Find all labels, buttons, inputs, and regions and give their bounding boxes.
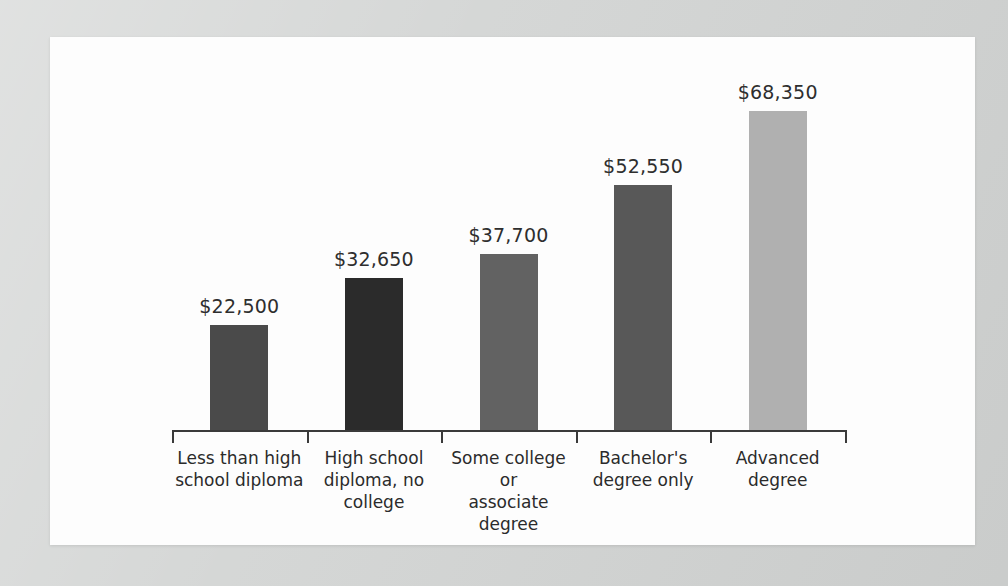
category-label: Advanceddegree: [710, 447, 845, 491]
category-label: Some college orassociatedegree: [441, 447, 576, 535]
category-label-line: Some college or: [441, 447, 576, 491]
category-label-line: Bachelor's: [576, 447, 711, 469]
bar-value-label: $22,500: [199, 295, 279, 317]
bar-rect: [210, 325, 268, 430]
category-label-line: degree: [710, 469, 845, 491]
category-label-line: degree only: [576, 469, 711, 491]
category-label-line: Less than high: [172, 447, 307, 469]
category-label-line: Advanced: [710, 447, 845, 469]
bar-rect: [480, 254, 538, 430]
category-label: Less than highschool diploma: [172, 447, 307, 491]
chart-panel: $22,500$32,650$37,700$52,550$68,350 Less…: [50, 37, 975, 545]
category-label-line: associate: [441, 491, 576, 513]
axis-tick: [441, 430, 443, 443]
category-label-line: school diploma: [172, 469, 307, 491]
axis-tick: [845, 430, 847, 443]
category-label: High schooldiploma, nocollege: [307, 447, 442, 513]
axis-tick: [576, 430, 578, 443]
category-label-line: diploma, no: [307, 469, 442, 491]
bar-chart-plot-area: $22,500$32,650$37,700$52,550$68,350 Less…: [50, 37, 975, 545]
axis-tick: [710, 430, 712, 443]
bar-rect: [749, 111, 807, 430]
category-label: Bachelor'sdegree only: [576, 447, 711, 491]
axis-tick: [307, 430, 309, 443]
bar-value-label: $68,350: [738, 81, 818, 103]
bar-rect: [614, 185, 672, 430]
x-axis-line: [172, 430, 845, 432]
bar-value-label: $32,650: [334, 248, 414, 270]
category-label-line: college: [307, 491, 442, 513]
category-label-line: degree: [441, 513, 576, 535]
axis-tick: [172, 430, 174, 443]
category-label-line: High school: [307, 447, 442, 469]
bar-value-label: $37,700: [469, 224, 549, 246]
bar-rect: [345, 278, 403, 430]
bar-value-label: $52,550: [603, 155, 683, 177]
